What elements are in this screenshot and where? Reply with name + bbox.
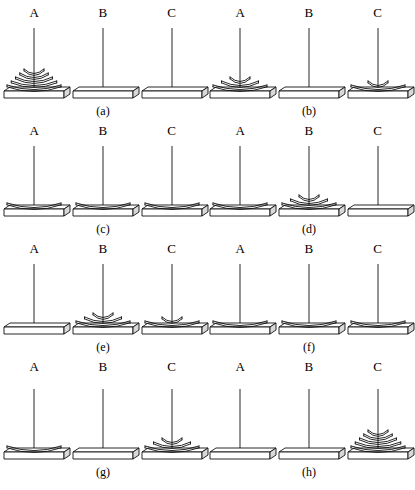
peg-artwork: [135, 383, 209, 465]
peg-b: B: [275, 236, 344, 354]
peg-b: B: [69, 0, 138, 118]
peg-artwork: [135, 258, 209, 340]
base-front-face: [210, 209, 270, 216]
peg-group: ABC: [0, 236, 206, 354]
panel-caption: (g): [0, 466, 206, 479]
peg-label: B: [69, 124, 138, 138]
base-front-face: [210, 91, 270, 98]
base-front-face: [348, 327, 408, 334]
base-front-face: [4, 209, 64, 216]
base-top-face: [73, 87, 139, 91]
base-front-face: [4, 91, 64, 98]
figure-row: ABC (e) ABC (f): [0, 236, 412, 354]
peg-label: B: [275, 242, 344, 256]
panel-d: ABC (d): [206, 118, 412, 236]
peg-group: ABC: [206, 236, 412, 354]
base-front-face: [73, 209, 133, 216]
peg-b: B: [275, 118, 344, 236]
panel-h: ABC (h): [206, 354, 412, 479]
base-front-face: [142, 209, 202, 216]
base-top-face: [210, 448, 276, 452]
peg-group: ABC: [206, 354, 412, 479]
peg-label: C: [137, 360, 206, 374]
peg-group: ABC: [206, 0, 412, 118]
peg-artwork: [203, 22, 277, 104]
peg-artwork: [66, 22, 140, 104]
peg-c: C: [343, 118, 412, 236]
peg-a: A: [206, 236, 275, 354]
peg-c: C: [137, 354, 206, 479]
panel-caption: (h): [206, 466, 412, 479]
peg-artwork: [341, 258, 415, 340]
panel-caption: (a): [0, 105, 206, 118]
base-front-face: [348, 452, 408, 459]
panel-f: ABC (f): [206, 236, 412, 354]
peg-artwork: [272, 140, 346, 222]
peg-artwork: [272, 383, 346, 465]
panel-a: ABC (a): [0, 0, 206, 118]
peg-a: A: [206, 118, 275, 236]
peg-artwork: [0, 258, 71, 340]
peg-label: C: [343, 242, 412, 256]
base-front-face: [142, 91, 202, 98]
panel-b: ABC (b): [206, 0, 412, 118]
peg-c: C: [343, 236, 412, 354]
peg-label: C: [137, 6, 206, 20]
peg-label: B: [69, 242, 138, 256]
panel-caption: (b): [206, 105, 412, 118]
base-front-face: [279, 327, 339, 334]
peg-label: C: [343, 360, 412, 374]
peg-label: A: [206, 242, 275, 256]
peg-artwork: [203, 140, 277, 222]
base-front-face: [210, 327, 270, 334]
figure-row: ABC (a) ABC (b): [0, 0, 412, 118]
peg-artwork: [66, 140, 140, 222]
peg-b: B: [275, 354, 344, 479]
peg-b: B: [275, 0, 344, 118]
peg-label: C: [137, 242, 206, 256]
base-front-face: [210, 452, 270, 459]
panel-e: ABC (e): [0, 236, 206, 354]
peg-group: ABC: [0, 354, 206, 479]
peg-c: C: [137, 118, 206, 236]
peg-group: ABC: [0, 0, 206, 118]
peg-artwork: [0, 140, 71, 222]
peg-artwork: [0, 383, 71, 465]
peg-label: A: [0, 242, 69, 256]
base-front-face: [4, 327, 64, 334]
peg-artwork: [135, 140, 209, 222]
base-front-face: [279, 91, 339, 98]
peg-label: B: [69, 6, 138, 20]
base-front-face: [73, 452, 133, 459]
base-front-face: [142, 452, 202, 459]
peg-label: C: [137, 124, 206, 138]
base-front-face: [142, 327, 202, 334]
peg-artwork: [135, 22, 209, 104]
figure-row: ABC (c) ABC (d): [0, 118, 412, 236]
peg-label: B: [275, 124, 344, 138]
peg-a: A: [0, 0, 69, 118]
peg-artwork: [341, 140, 415, 222]
base-front-face: [279, 452, 339, 459]
peg-group: ABC: [206, 118, 412, 236]
peg-b: B: [69, 236, 138, 354]
peg-c: C: [343, 0, 412, 118]
peg-artwork: [0, 22, 71, 104]
peg-label: A: [206, 124, 275, 138]
base-top-face: [348, 205, 414, 209]
panel-c: ABC (c): [0, 118, 206, 236]
peg-artwork: [272, 22, 346, 104]
panel-caption: (f): [206, 341, 412, 354]
peg-c: C: [343, 354, 412, 479]
panel-caption: (e): [0, 341, 206, 354]
base-top-face: [73, 448, 139, 452]
base-front-face: [73, 327, 133, 334]
base-top-face: [4, 323, 70, 327]
peg-label: A: [0, 6, 69, 20]
peg-a: A: [206, 354, 275, 479]
base-front-face: [348, 91, 408, 98]
panel-caption: (c): [0, 223, 206, 236]
peg-group: ABC: [0, 118, 206, 236]
peg-c: C: [137, 236, 206, 354]
